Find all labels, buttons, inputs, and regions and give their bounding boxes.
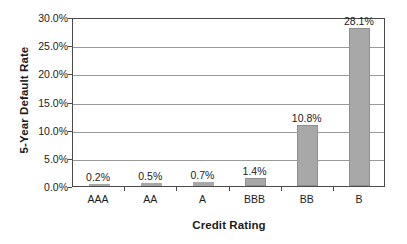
gridline bbox=[73, 132, 384, 133]
gridline bbox=[73, 160, 384, 161]
bar-data-label: 0.7% bbox=[190, 169, 214, 181]
y-axis-tick-labels: 0.0%5.0%10.0%15.0%20.0%25.0%30.0% bbox=[20, 18, 68, 187]
x-axis-category-label: B bbox=[355, 193, 362, 205]
bar bbox=[245, 178, 266, 186]
bar bbox=[349, 28, 370, 186]
y-axis-tick-mark bbox=[68, 103, 72, 104]
bar-data-label: 10.8% bbox=[292, 112, 322, 124]
x-axis-category-label: BB bbox=[300, 193, 314, 205]
bar-data-label: 1.4% bbox=[243, 165, 267, 177]
bar bbox=[89, 184, 110, 187]
y-axis-tick-label: 15.0% bbox=[24, 97, 68, 109]
bar-data-label: 0.5% bbox=[138, 170, 162, 182]
x-axis-category-label: BBB bbox=[244, 193, 265, 205]
x-axis-tick-mark bbox=[281, 187, 282, 191]
y-axis-tick-mark bbox=[68, 159, 72, 160]
bar-data-label: 0.2% bbox=[86, 171, 110, 183]
y-axis-tick-label: 5.0% bbox=[24, 153, 68, 165]
x-axis-tick-mark bbox=[124, 187, 125, 191]
y-axis-tick-mark bbox=[68, 131, 72, 132]
x-axis-tick-mark bbox=[333, 187, 334, 191]
y-axis-tick-label: 30.0% bbox=[24, 12, 68, 24]
y-axis-tick-mark bbox=[68, 74, 72, 75]
plot-area bbox=[72, 18, 385, 187]
gridline bbox=[73, 104, 384, 105]
x-axis-tick-mark bbox=[229, 187, 230, 191]
bar-chart: 5-Year Default Rate 0.0%5.0%10.0%15.0%20… bbox=[0, 0, 407, 244]
bar bbox=[141, 183, 162, 186]
y-axis-tick-mark bbox=[68, 187, 72, 188]
gridline bbox=[73, 75, 384, 76]
x-axis-category-label: AAA bbox=[88, 193, 109, 205]
bar bbox=[193, 182, 214, 186]
y-axis-tick-mark bbox=[68, 18, 72, 19]
gridline bbox=[73, 47, 384, 48]
y-axis-tick-label: 10.0% bbox=[24, 125, 68, 137]
y-axis-tick-label: 20.0% bbox=[24, 68, 68, 80]
x-axis-title: Credit Rating bbox=[72, 219, 386, 231]
x-axis-category-label: AA bbox=[143, 193, 157, 205]
bar bbox=[297, 125, 318, 186]
y-axis-tick-label: 25.0% bbox=[24, 40, 68, 52]
x-axis-tick-mark bbox=[176, 187, 177, 191]
y-axis-tick-mark bbox=[68, 46, 72, 47]
y-axis-tick-label: 0.0% bbox=[24, 181, 68, 193]
bar-data-label: 28.1% bbox=[344, 15, 374, 27]
x-axis-category-label: A bbox=[199, 193, 206, 205]
